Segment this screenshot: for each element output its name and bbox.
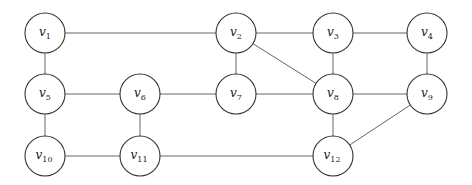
nodes-layer: v1v2v3v4v5v6v7v8v9v10v11v12 [25, 13, 447, 176]
node-v10: v10 [25, 136, 65, 176]
node-v12: v12 [313, 136, 353, 176]
node-label-subscript: 4 [428, 32, 433, 41]
node-label-subscript: 2 [237, 32, 242, 41]
node-label-subscript: 12 [330, 155, 340, 164]
node-v1: v1 [25, 13, 65, 53]
node-v3: v3 [313, 13, 353, 53]
node-v8: v8 [313, 74, 353, 114]
node-v7: v7 [216, 74, 256, 114]
node-label-subscript: 11 [137, 155, 147, 164]
node-v9: v9 [407, 74, 447, 114]
node-v2: v2 [216, 13, 256, 53]
node-label-subscript: 1 [46, 32, 51, 41]
node-label-subscript: 10 [42, 155, 52, 164]
node-label-subscript: 8 [334, 93, 339, 102]
node-label-subscript: 9 [428, 93, 433, 102]
node-label-subscript: 6 [141, 93, 146, 102]
node-v4: v4 [407, 13, 447, 53]
graph-diagram: v1v2v3v4v5v6v7v8v9v10v11v12 [0, 0, 472, 185]
node-v6: v6 [120, 74, 160, 114]
node-label-subscript: 7 [237, 93, 242, 102]
node-label-subscript: 5 [46, 93, 51, 102]
node-v11: v11 [120, 136, 160, 176]
node-v5: v5 [25, 74, 65, 114]
node-label-subscript: 3 [334, 32, 339, 41]
